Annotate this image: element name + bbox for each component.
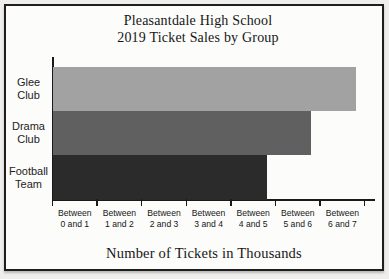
bar-glee-club <box>53 67 356 111</box>
x-axis-bin-label-line: Between <box>141 208 187 219</box>
x-axis-bin-label-line: Between <box>319 208 365 219</box>
x-axis-bin-label-0: Between0 and 1 <box>52 208 98 230</box>
x-axis-tick-2 <box>141 199 142 206</box>
x-axis-bin-label-5: Between5 and 6 <box>275 208 321 230</box>
category-label-glee-club: GleeClub <box>6 76 51 102</box>
x-axis-tick-3 <box>186 199 187 206</box>
x-axis-tick-0 <box>52 199 53 206</box>
x-axis-bin-label-4: Between4 and 5 <box>230 208 276 230</box>
x-axis-bin-label-line: Between <box>186 208 232 219</box>
x-axis-bin-label-line: 4 and 5 <box>230 219 276 230</box>
x-axis-bin-label-line: 1 and 2 <box>96 219 142 230</box>
x-axis-bin-label-line: Between <box>275 208 321 219</box>
x-axis-tick-6 <box>319 199 320 206</box>
x-axis-bin-label-line: 0 and 1 <box>52 219 98 230</box>
category-label-line: Football <box>6 165 51 178</box>
x-axis-tick-5 <box>275 199 276 206</box>
x-axis-title: Number of Tickets in Thousands <box>26 245 382 262</box>
category-label-line: Glee <box>6 76 51 89</box>
category-label-line: Club <box>6 133 51 146</box>
bar-football-team <box>53 155 267 199</box>
x-axis-bin-label-line: 5 and 6 <box>275 219 321 230</box>
x-axis-bin-label-line: Between <box>230 208 276 219</box>
x-axis-bin-label-3: Between3 and 4 <box>186 208 232 230</box>
x-axis-bin-label-1: Between1 and 2 <box>96 208 142 230</box>
category-label-line: Team <box>6 178 51 191</box>
category-label-line: Club <box>6 89 51 102</box>
x-axis-bin-label-line: 2 and 3 <box>141 219 187 230</box>
x-axis-bin-label-line: Between <box>52 208 98 219</box>
category-label-football-team: FootballTeam <box>6 165 51 191</box>
category-label-drama-club: DramaClub <box>6 120 51 146</box>
x-axis-bin-label-6: Between6 and 7 <box>319 208 365 230</box>
x-axis-tick-1 <box>96 199 97 206</box>
bar-drama-club <box>53 111 312 155</box>
x-axis-bin-label-line: 6 and 7 <box>319 219 365 230</box>
category-label-line: Drama <box>6 120 51 133</box>
x-axis-bin-label-line: Between <box>96 208 142 219</box>
x-axis-bin-label-line: 3 and 4 <box>186 219 232 230</box>
x-axis-tick-7 <box>364 199 365 206</box>
chart-area: GleeClubDramaClubFootballTeamBetween0 an… <box>6 6 382 269</box>
x-axis-tick-4 <box>230 199 231 206</box>
scanned-figure-page: Pleasantdale High School 2019 Ticket Sal… <box>0 0 389 279</box>
x-axis-bin-label-2: Between2 and 3 <box>141 208 187 230</box>
figure-frame: Pleasantdale High School 2019 Ticket Sal… <box>4 4 384 271</box>
